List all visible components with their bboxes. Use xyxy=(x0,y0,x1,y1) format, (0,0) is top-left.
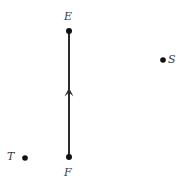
geometry-diagram: E F S T xyxy=(0,0,189,185)
point-F-dot xyxy=(66,154,72,160)
point-E-dot xyxy=(66,28,72,34)
point-label-F: F xyxy=(64,167,72,178)
point-label-T: T xyxy=(7,151,14,162)
point-T-dot xyxy=(22,155,28,161)
point-S-dot xyxy=(160,57,166,63)
point-label-S: S xyxy=(168,54,176,65)
point-label-E: E xyxy=(64,11,72,22)
diagram-vector-layer xyxy=(0,0,189,185)
